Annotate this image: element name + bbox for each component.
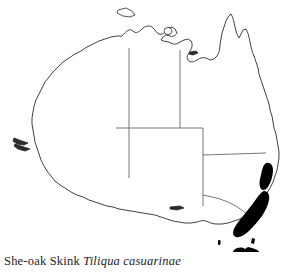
melville-island — [117, 8, 135, 17]
groote-eylandt — [164, 28, 172, 35]
king-island-distribution — [218, 240, 221, 245]
flinders-island-distribution — [251, 238, 255, 244]
australia-mainland-outline — [32, 14, 279, 224]
mornington-island — [189, 51, 198, 55]
caption-common-name: She-oak Skink — [4, 254, 80, 268]
species-distribution-figure: She-oak Skink Tiliqua casuarinae — [0, 0, 288, 280]
map-svg — [0, 0, 288, 252]
australia-map — [0, 0, 288, 252]
tasmania-distribution — [233, 247, 262, 252]
figure-caption: She-oak Skink Tiliqua casuarinae — [4, 254, 181, 269]
caption-scientific-name: Tiliqua casuarinae — [83, 254, 181, 268]
